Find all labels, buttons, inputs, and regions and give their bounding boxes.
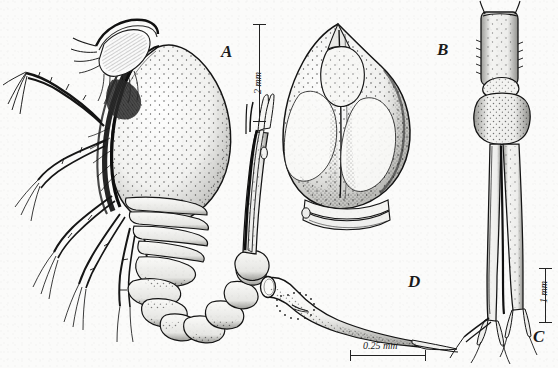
plate-artwork	[0, 0, 558, 368]
scale-bar-d-label: 0.25 mm	[363, 340, 397, 351]
panel-label-a: A	[221, 42, 232, 62]
scale-bar-c-label: 1 mm	[538, 281, 549, 303]
panel-label-c: C	[533, 327, 544, 347]
scale-bar-a-label: 2 mm	[252, 72, 263, 94]
figure-a-left-appendage	[3, 72, 106, 221]
figure-b-carapace-dorsal	[283, 24, 410, 230]
figure-d-funnel-appendage	[261, 277, 459, 353]
illustration-plate: A B C D 2 mm 1 mm 0.25 mm	[0, 0, 558, 368]
scale-bar-a-cap-top	[253, 24, 266, 25]
scale-bar-c-cap-bottom	[539, 322, 552, 323]
scale-bar-a-cap-bottom	[253, 121, 266, 122]
figure-c-appendage	[450, 1, 537, 364]
scale-bar-c-cap-top	[539, 268, 552, 269]
scale-bar-d-cap-right	[425, 350, 426, 361]
figure-a-lateral-habitus	[3, 20, 274, 343]
scale-bar-d-cap-left	[350, 350, 351, 361]
scale-bar-d-line	[350, 355, 426, 356]
panel-label-b: B	[437, 40, 448, 60]
panel-label-d: D	[408, 272, 420, 292]
